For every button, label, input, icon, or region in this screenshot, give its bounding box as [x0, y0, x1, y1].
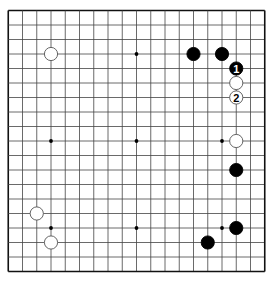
star-point — [220, 226, 224, 230]
black-stone[interactable] — [201, 236, 214, 249]
star-point — [49, 226, 53, 230]
black-stone[interactable]: 1 — [230, 62, 243, 75]
black-stone[interactable] — [215, 47, 228, 60]
black-stone[interactable] — [187, 47, 200, 60]
star-point — [135, 226, 139, 230]
white-stone[interactable] — [30, 207, 43, 220]
star-point — [135, 139, 139, 143]
white-stone[interactable] — [44, 236, 57, 249]
star-point — [49, 139, 53, 143]
star-point — [135, 52, 139, 56]
white-stone[interactable] — [230, 76, 243, 89]
move-number-label: 1 — [233, 63, 239, 75]
black-stone[interactable] — [230, 163, 243, 176]
white-stone[interactable]: 2 — [230, 91, 243, 104]
white-stone[interactable] — [44, 47, 57, 60]
black-stone[interactable] — [230, 221, 243, 234]
move-number-label: 2 — [233, 92, 239, 104]
star-point — [220, 139, 224, 143]
go-board[interactable]: 12 — [0, 0, 271, 285]
white-stone[interactable] — [230, 134, 243, 147]
